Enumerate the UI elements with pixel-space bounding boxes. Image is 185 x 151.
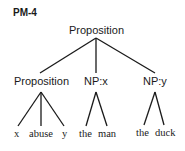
tree-diagram: PM-4 Proposition Proposition NP:x NP:y x… xyxy=(0,0,185,151)
leaf-y: y xyxy=(62,128,67,139)
leaf-the-2: the xyxy=(136,127,149,138)
node-np-x: NP:x xyxy=(84,75,108,87)
diagram-title: PM-4 xyxy=(13,7,37,18)
leaf-the-1: the xyxy=(79,128,92,139)
leaf-duck: duck xyxy=(155,127,175,138)
node-np-y: NP:y xyxy=(143,75,167,87)
leaf-abuse: abuse xyxy=(29,128,53,139)
node-proposition: Proposition xyxy=(14,75,69,87)
leaf-man: man xyxy=(98,128,116,139)
root-node: Proposition xyxy=(69,24,124,36)
leaf-x: x xyxy=(14,128,19,139)
